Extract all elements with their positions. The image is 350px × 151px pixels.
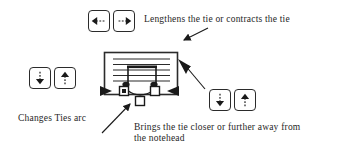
arrow-down-dashed-icon [30, 68, 50, 88]
arrow-right-dashed-icon [114, 11, 134, 31]
arrow-down-dashed-button[interactable] [209, 89, 231, 111]
caption-brings-tie-closer: Brings the tie closer or further away fr… [134, 122, 344, 144]
leader-line-lengthens [184, 28, 208, 40]
arrow-up-dashed-button[interactable] [234, 89, 256, 111]
caption-lengthens: Lengthens the tie or contracts the tie [144, 14, 290, 25]
leader-line-arc [102, 104, 130, 133]
arrow-down-dashed-button[interactable] [29, 67, 51, 89]
arrow-left-dashed-button[interactable] [88, 10, 110, 32]
note-beam [127, 66, 157, 69]
tie-handle-right[interactable] [151, 87, 160, 96]
arrow-up-dashed-icon [235, 90, 255, 110]
arrow-up-dashed-button[interactable] [54, 67, 76, 89]
pointer-edge-triangle [178, 59, 190, 74]
arrow-right-dashed-button[interactable] [113, 10, 135, 32]
tie-handle-left[interactable] [120, 87, 129, 96]
tie-handle-middle[interactable] [136, 97, 145, 106]
diagram-canvas: Lengthens the tie or contracts the tie C… [0, 0, 350, 151]
arrow-up-dashed-icon [55, 68, 75, 88]
arrow-left-dashed-icon [89, 11, 109, 31]
caption-changes-ties-arc: Changes Ties arc [18, 113, 86, 124]
arrow-down-dashed-icon [210, 90, 230, 110]
leader-line-closer [184, 64, 205, 89]
